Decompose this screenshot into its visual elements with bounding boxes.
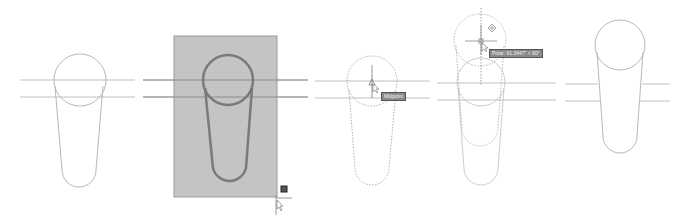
drawing-canvas[interactable] [0,0,684,221]
midpoint-tooltip: Midpoint [381,92,406,101]
selection-window [143,36,308,215]
polar-tracking-crosshair [465,8,497,85]
construction-lines [20,80,670,101]
polar-tooltip: Polar: 61.3447" < 90° [489,49,543,58]
cursor-icon [482,43,488,52]
osnap-marker-icon [488,24,496,32]
slot-shape-original [54,54,106,187]
cursor-icon [277,200,283,211]
slot-shape-dragging [454,14,506,146]
slot-shape-stretched [595,20,645,153]
grip-icon [281,186,287,192]
cursor-icon [373,84,379,93]
